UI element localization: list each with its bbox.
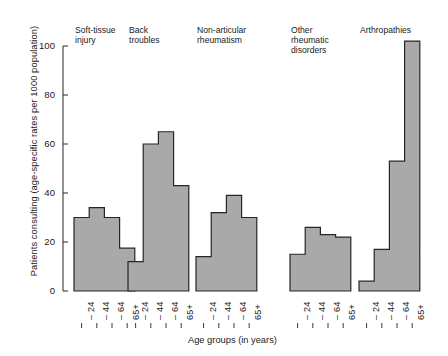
panel-bars [196, 195, 257, 291]
panel-bars [359, 41, 420, 291]
x-tick-label: – 64 [116, 302, 126, 321]
y-tick-label: 60 [29, 138, 55, 149]
panel-group [196, 195, 257, 291]
panel-title: Non-articular rheumatism [197, 25, 246, 45]
x-tick-label: – 64 [401, 302, 411, 321]
y-axis-title: Patients consulting (age-specific rates … [29, 11, 39, 291]
panel-title: Arthropathies [360, 25, 411, 35]
panel-bars [128, 132, 189, 291]
panel-group [74, 208, 135, 291]
x-axis-title: Age groups (in years) [188, 335, 277, 345]
x-tick-label: 65+ [185, 304, 195, 320]
panel-title: Back troubles [129, 25, 160, 45]
y-tick-label: 100 [29, 40, 55, 51]
x-tick-label: – 44 [155, 302, 165, 321]
x-tick-label: – 24 [86, 302, 96, 321]
x-tick-label: – 44 [101, 302, 111, 321]
x-tick-label: 65+ [347, 304, 357, 320]
panel-bars [290, 227, 351, 291]
panel-group [359, 41, 420, 291]
x-tick-label: – 64 [170, 302, 180, 321]
panel-title: Soft-tissue injury [75, 25, 116, 45]
x-tick-label: – 44 [223, 302, 233, 321]
x-tick-label: – 44 [317, 302, 327, 321]
y-tick-label: 20 [29, 236, 55, 247]
x-tick-label: – 64 [332, 302, 342, 321]
y-tick-label: 40 [29, 187, 55, 198]
panel-bars [74, 208, 135, 291]
panel-title: Other rheumatic disorders [291, 25, 329, 56]
y-tick-label: 0 [29, 285, 55, 296]
x-tick-label: – 24 [371, 302, 381, 321]
y-tick-label: 80 [29, 89, 55, 100]
x-tick-label: – 24 [140, 302, 150, 321]
x-tick-label: – 24 [208, 302, 218, 321]
panel-group [128, 132, 189, 291]
x-tick-label: 65+ [416, 304, 426, 320]
x-tick-label: – 24 [302, 302, 312, 321]
x-tick-label: – 44 [386, 302, 396, 321]
bar-chart-figure: Patients consulting (age-specific rates … [0, 0, 448, 356]
x-tick-label: – 64 [238, 302, 248, 321]
panel-group [290, 227, 351, 291]
x-tick-label: 65+ [253, 304, 263, 320]
